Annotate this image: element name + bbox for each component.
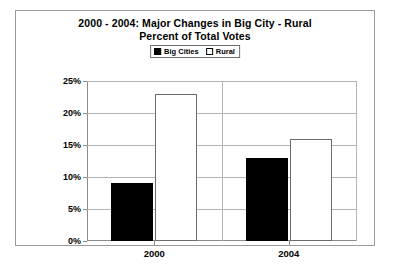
category-separator bbox=[222, 81, 223, 241]
plot-area: 0%5%10%15%20%25% 20002004 bbox=[87, 71, 356, 241]
chart-title-block: 2000 - 2004: Major Changes in Big City -… bbox=[16, 17, 374, 43]
category-separator bbox=[356, 81, 357, 241]
legend-swatch-icon-rural bbox=[206, 48, 213, 55]
y-axis-tick-mark bbox=[83, 145, 87, 146]
y-axis-tick-mark bbox=[83, 241, 87, 242]
x-axis-category-label: 2000 bbox=[144, 248, 165, 259]
y-axis-tick-mark bbox=[83, 113, 87, 114]
y-axis-tick-label: 20% bbox=[63, 108, 81, 118]
chart-subtitle: Percent of Total Votes bbox=[16, 30, 374, 43]
legend-swatch-icon-big-cities bbox=[154, 48, 161, 55]
legend-label-rural: Rural bbox=[216, 47, 235, 56]
y-axis-tick-label: 15% bbox=[63, 140, 81, 150]
legend-entry-big-cities: Big Cities bbox=[154, 47, 199, 56]
y-axis-tick-mark bbox=[83, 81, 87, 82]
y-axis-tick-label: 0% bbox=[68, 236, 81, 246]
y-axis-tick-label: 25% bbox=[63, 76, 81, 86]
chart-title: 2000 - 2004: Major Changes in Big City -… bbox=[16, 17, 374, 30]
bar-rural-2004 bbox=[290, 139, 332, 241]
x-axis-category-label: 2004 bbox=[278, 248, 299, 259]
legend-label-big-cities: Big Cities bbox=[164, 47, 199, 56]
x-axis-tick-mark bbox=[154, 241, 155, 245]
x-axis-tick-mark bbox=[289, 241, 290, 245]
chart-frame: 2000 - 2004: Major Changes in Big City -… bbox=[15, 10, 375, 246]
plot-inner: 0%5%10%15%20%25% 20002004 bbox=[87, 81, 356, 241]
bar-rural-2000 bbox=[155, 94, 197, 241]
y-axis-tick-mark bbox=[83, 209, 87, 210]
chart-legend: Big Cities Rural bbox=[150, 45, 240, 58]
bar-big-cities-2000 bbox=[111, 183, 153, 241]
legend-entry-rural: Rural bbox=[206, 47, 235, 56]
y-axis-line bbox=[87, 81, 88, 241]
y-axis-tick-mark bbox=[83, 177, 87, 178]
y-axis-tick-label: 5% bbox=[68, 204, 81, 214]
y-axis-tick-label: 10% bbox=[63, 172, 81, 182]
bar-big-cities-2004 bbox=[246, 158, 288, 241]
